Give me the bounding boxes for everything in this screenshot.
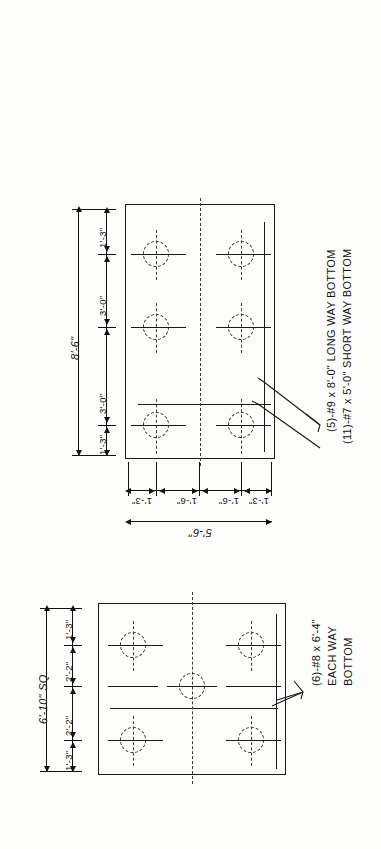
dim-tick	[98, 425, 116, 426]
lower-pedestal-side	[276, 614, 277, 769]
upper-long-dim-3: 3'-0"	[97, 394, 108, 414]
bolt-centerline	[167, 686, 217, 687]
lower-overall-label: 6'-10" SQ.	[37, 671, 49, 724]
lower-dim-1: 1'-3"	[63, 620, 74, 640]
bolt-centerline-vertical	[156, 230, 157, 280]
bolt-centerline-vertical	[241, 303, 242, 353]
dim-tick	[241, 462, 242, 496]
dim-tick	[98, 327, 116, 328]
dim-tick	[156, 462, 157, 496]
bolt-centerline-vertical	[156, 303, 157, 353]
arrowhead	[234, 488, 240, 494]
arrowhead	[104, 319, 110, 325]
bolt-centerline	[108, 686, 158, 687]
upper-long-dim-4: 1'-3"	[97, 435, 108, 455]
arrowhead	[192, 488, 198, 494]
bolt-centerline	[108, 645, 163, 646]
dim-tick	[64, 740, 82, 741]
lower-note-line-2: EACH WAY	[326, 626, 338, 686]
arrowhead	[70, 688, 76, 694]
arrowhead	[104, 329, 110, 335]
bolt-centerline	[131, 327, 186, 328]
leader-hook-upper	[306, 414, 320, 432]
bolt-centerline-vertical	[241, 399, 242, 454]
upper-long-dim-1: 1'-3"	[97, 228, 108, 248]
bolt-centerline	[131, 425, 186, 426]
arrowhead	[244, 488, 250, 494]
arrowhead	[70, 647, 76, 653]
lower-dim-2: 2'-2"	[63, 662, 74, 682]
bolt-centerline-vertical	[156, 399, 157, 454]
lower-note-line-1: (6)-#8 x 6'-4"	[310, 619, 322, 686]
dim-tick	[199, 462, 200, 496]
arrowhead	[104, 427, 110, 433]
bolt-centerline-vertical	[133, 621, 134, 671]
arrowhead	[266, 519, 272, 525]
upper-short-dim-2: 1'-6"	[177, 496, 197, 507]
lower-note-line-3: BOTTOM	[342, 637, 354, 686]
drawing-sheet: 1'-3" 3'-0" 3'-0" 1'-3" 8'-6" 1'-3" 1'-6…	[0, 0, 381, 849]
bolt-centerline	[226, 686, 281, 687]
bolt-centerline	[216, 327, 271, 328]
lower-dim-3: 2'-2"	[63, 716, 74, 736]
bolt-centerline	[226, 740, 281, 741]
upper-note-line-2: (11)-#7 x 5'-0" SHORT WAY BOTTOM	[341, 248, 353, 444]
dim-tick	[40, 771, 78, 772]
bolt-centerline-vertical	[251, 621, 252, 671]
leader-hook-lower	[294, 681, 303, 699]
arrowhead	[104, 256, 110, 262]
bolt-centerline-vertical	[133, 716, 134, 766]
bolt-centerline	[226, 645, 281, 646]
dim-tick	[271, 462, 272, 496]
upper-overall-long-label: 8'-6"	[69, 337, 81, 360]
upper-short-dim-3: 1'-6"	[219, 496, 239, 507]
dim-tick	[64, 686, 82, 687]
arrowhead	[104, 417, 110, 423]
dim-tick	[72, 455, 112, 456]
bolt-centerline	[216, 254, 271, 255]
upper-note-line-1: (5)-#9 x 8'-0" LONG WAY BOTTOM	[325, 249, 337, 432]
upper-short-dim-1: 1'-3"	[132, 496, 152, 507]
upper-overall-dim-line	[78, 209, 79, 455]
lower-pedestal-edge	[110, 708, 278, 709]
dim-tick	[98, 254, 116, 255]
bolt-centerline-vertical	[241, 230, 242, 280]
upper-pedestal-side	[264, 222, 265, 452]
dim-tick	[72, 209, 112, 210]
bolt-centerline	[108, 740, 163, 741]
lower-dim-4: 1'-3"	[63, 751, 74, 771]
bolt-centerline	[216, 425, 271, 426]
dim-tick	[64, 645, 82, 646]
upper-pedestal-edge	[138, 404, 271, 405]
upper-long-dim-2: 3'-0"	[97, 296, 108, 316]
upper-centerline-vertical	[200, 198, 201, 466]
arrowhead	[149, 488, 155, 494]
arrowhead	[70, 742, 76, 748]
dim-tick	[128, 462, 129, 496]
dim-tick	[40, 608, 78, 609]
upper-short-dim-4: 1'-3"	[249, 496, 269, 507]
arrowhead	[104, 207, 110, 213]
arrowhead	[202, 488, 208, 494]
bolt-centerline-vertical	[251, 716, 252, 766]
upper-overall-short-label: 5'-6"	[189, 527, 212, 539]
arrowhead	[125, 519, 131, 525]
arrowhead	[159, 488, 165, 494]
bolt-centerline	[131, 254, 186, 255]
upper-overall-short-line	[128, 521, 272, 522]
